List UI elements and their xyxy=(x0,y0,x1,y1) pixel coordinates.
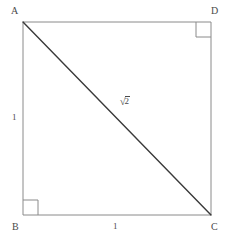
right-angle-marker-d xyxy=(196,22,211,37)
geometry-figure: A D B C 1 1 √2 xyxy=(0,0,233,239)
diagonal-line-ac xyxy=(23,22,211,215)
right-angle-marker-d-path xyxy=(196,22,211,37)
vertex-label-a: A xyxy=(11,6,18,16)
right-angle-marker-b-path xyxy=(23,200,38,215)
vertex-label-d: D xyxy=(211,6,218,16)
vertex-label-b: B xyxy=(12,222,19,232)
right-angle-marker-b xyxy=(23,200,38,215)
radical-expression: √2 xyxy=(120,96,130,107)
diagonal-length-label: √2 xyxy=(120,96,130,107)
figure-canvas xyxy=(0,0,233,239)
side-label-left: 1 xyxy=(12,113,17,122)
side-label-bottom: 1 xyxy=(113,222,118,231)
vertex-label-c: C xyxy=(211,222,218,232)
radicand-value: 2 xyxy=(125,96,131,106)
